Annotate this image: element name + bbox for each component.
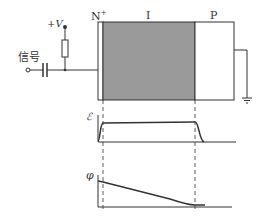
field-axis-label: ℰ (86, 112, 92, 122)
i-region-label: I (146, 10, 150, 21)
p-region (195, 22, 234, 100)
p-region-label: P (210, 10, 217, 21)
supply-voltage-label: +V (47, 19, 63, 29)
potential-profile-curve (98, 181, 205, 205)
i-region (103, 22, 195, 100)
signal-terminal-dot (26, 68, 30, 72)
resistor (62, 40, 68, 57)
signal-label: 信号 (18, 52, 40, 63)
n-plus-region (98, 22, 103, 100)
ground-icon (242, 98, 252, 103)
field-profile-curve (98, 122, 204, 142)
potential-axis-label: φ (86, 170, 94, 181)
pin-diode-diagram (0, 0, 269, 221)
ground-wire (234, 50, 247, 98)
n-region-label: N+ (91, 10, 107, 22)
